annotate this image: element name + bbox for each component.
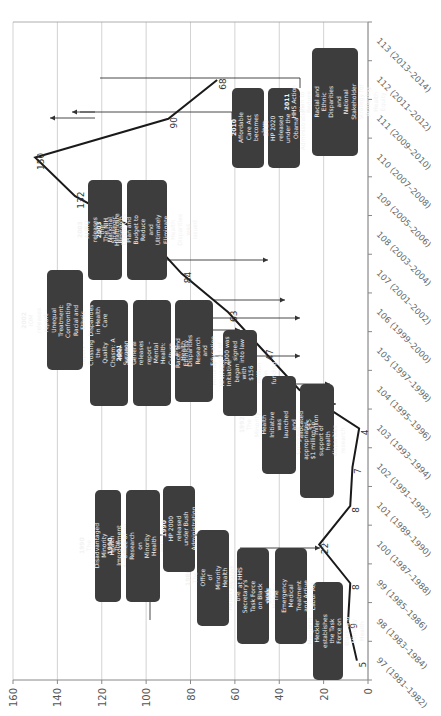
annotation-box: 2003The NIH Strategic Research Plan and … (127, 180, 167, 280)
annotation-text: HHS Sec. Margaret Heckler establishes th… (298, 614, 365, 648)
annotation-text: HHS Action Plan to Reduce Racial and Eth… (291, 83, 387, 121)
point-value-label: 22 (320, 543, 330, 554)
annotation-year: 1985 (265, 579, 272, 613)
point-value-label: 90 (169, 117, 179, 129)
annotation-text: HP 2000 released under Bush Administrati… (168, 507, 198, 551)
annotation-box: 1992The Minority Health Initiative was l… (262, 376, 296, 474)
value-tick-label: 40 (274, 688, 285, 701)
point-value-label: 4 (360, 429, 370, 435)
point-value-label: 7 (353, 468, 363, 474)
value-tick-label: 80 (186, 688, 197, 701)
annotation-text: The Office of Minority Health created at… (191, 566, 243, 590)
value-tick-label: 100 (141, 688, 152, 707)
annotation-text: Surgeon General releases report – Mental… (122, 338, 189, 368)
value-tick-label: 0 (363, 688, 374, 694)
annotation-year: 2001 (115, 338, 122, 368)
annotation-text: IOM releases report – Unequal Treatment:… (28, 302, 109, 337)
point-value-label: 8 (351, 507, 361, 513)
point-value-label: 132 (76, 192, 86, 209)
point-value-label: 63 (229, 311, 239, 322)
value-tick-label: 60 (230, 688, 241, 701)
annotation-year: 2010 (262, 106, 269, 150)
annotation-text: The Minority Health Initiative was launc… (246, 411, 320, 439)
annotation-box: 2010Affordable Care Act becomes law (232, 88, 264, 168)
value-tick-label: 160 (8, 688, 19, 707)
value-tick-label: 20 (319, 688, 330, 701)
annotation-box: 1990HP 2000 released under Bush Administ… (163, 486, 195, 572)
annotation-text: The NIH Strategic Research Plan and Budg… (103, 214, 199, 246)
annotation-year: 2003 (75, 214, 82, 247)
point-value-label: 8 (351, 584, 361, 590)
annotation-text: The Emergency Medical Treatment and Acti… (272, 579, 316, 613)
annotation-year: 1990 (160, 507, 167, 551)
annotation-box: 1985The Emergency Medical Treatment and … (275, 548, 307, 644)
point-value-label: 150 (36, 153, 46, 170)
annotation-year: 2003 (95, 214, 102, 246)
annotation-box: 1984HHS Sec. Margaret Heckler establishe… (313, 582, 343, 680)
annotation-box: 2002IOM releases report – Unequal Treatm… (47, 270, 83, 370)
annotation-box: 2011HHS Action Plan to Reduce Racial and… (312, 48, 358, 156)
value-tick-label: 120 (97, 688, 108, 707)
annotation-year: 2011 (283, 83, 290, 121)
annotation-year: 2010 (229, 113, 236, 144)
point-value-label: 68 (218, 78, 228, 90)
point-value-label: 84 (183, 272, 193, 284)
annotation-box: 2001Surgeon General releases report – Me… (133, 300, 171, 406)
annotation-box: 1986The Office of Minority Health create… (197, 530, 229, 626)
point-value-label: 5 (358, 662, 368, 668)
value-tick-label: 140 (52, 688, 63, 707)
annotation-box: 1991Congress appropriates $1 million to … (300, 384, 334, 498)
annotation-box: 1990The Office of Research on Minority H… (126, 490, 160, 602)
